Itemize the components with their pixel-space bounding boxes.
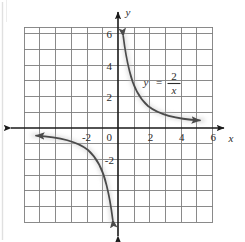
equation-numerator: 2	[171, 70, 177, 82]
y-tick-label-6: 6	[107, 28, 113, 40]
x-tick-label-6: 6	[210, 131, 216, 143]
origin-label: 0	[107, 131, 113, 143]
graph-svg: -2 2 4 6 6 4 2 -2 0 x y y = 2 x	[0, 0, 245, 242]
x-tick-label-2: 2	[148, 131, 154, 143]
equation-denominator: x	[171, 84, 177, 96]
y-tick-label-2: 2	[107, 91, 113, 103]
x-axis-name: x	[228, 132, 234, 144]
x-tick-label-4: 4	[179, 131, 185, 143]
equation-equals-sign: =	[156, 76, 162, 88]
y-tick-label-4: 4	[107, 60, 113, 72]
figure-container: -2 2 4 6 6 4 2 -2 0 x y y = 2 x	[0, 0, 245, 242]
y-axis-name: y	[125, 6, 131, 18]
y-tick-label-neg2: -2	[105, 154, 114, 166]
equation-lhs: y	[143, 76, 149, 88]
x-tick-label-neg2: -2	[82, 131, 91, 143]
